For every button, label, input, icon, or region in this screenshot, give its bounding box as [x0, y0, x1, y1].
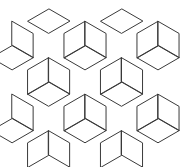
rhombille-tiling-figure: Rhombille tiling Isometric cube illusion…	[0, 0, 183, 167]
